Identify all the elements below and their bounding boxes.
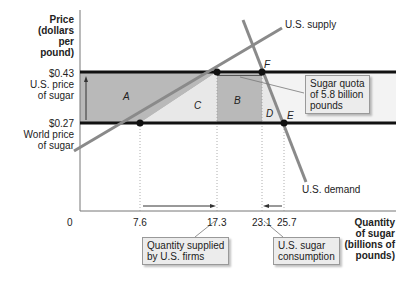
x-tick-25-7: 25.7 (277, 217, 296, 228)
x-tick-7-6: 7.6 (133, 217, 147, 228)
consumption-callout: U.S. sugar consumption (273, 237, 340, 265)
point-us-supply (214, 69, 221, 76)
supplied-arrow-head (210, 204, 216, 208)
x-tick-origin: 0 (67, 217, 73, 228)
quota-callout: Sugar quota of 5.8 billion pounds (305, 75, 370, 114)
y-axis-title: Price (dollars per pound) (20, 14, 74, 58)
point-f-label: F (264, 59, 270, 70)
region-d-label: D (266, 108, 273, 119)
consumption-arrow-head (263, 204, 269, 208)
region-a-label: A (123, 91, 130, 102)
region-c-label: C (194, 100, 201, 111)
point-e-label: E (287, 110, 294, 121)
supplied-callout: Quantity supplied by U.S. firms (142, 237, 229, 265)
us-demand-label: U.S. demand (302, 184, 360, 195)
point-world-supply (137, 120, 144, 127)
x-tick-17-3: 17.3 (207, 217, 226, 228)
region-b-label: B (234, 95, 241, 106)
y-tick-high: $0.43 U.S. price of sugar (10, 68, 74, 101)
x-axis-title: Quantity of sugar (billions of pounds) (330, 217, 395, 261)
us-supply-label: U.S. supply (285, 19, 336, 30)
y-tick-low: $0.27 World price of sugar (10, 118, 74, 151)
x-tick-23-1: 23.1 (252, 217, 271, 228)
